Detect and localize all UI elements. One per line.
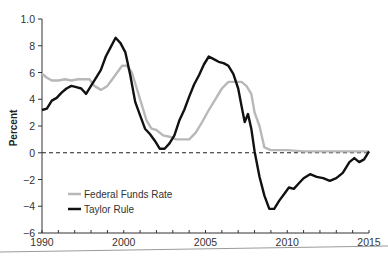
y-tick-label: −4 [23,200,35,212]
y-tick-label: 0 [29,147,35,159]
y-tick-label: −2 [23,174,35,186]
x-tick-label: 2005 [194,236,218,248]
y-axis-ticks: 1.086420−2−4−6 [20,13,42,239]
y-tick-label: 2 [29,120,35,132]
taylor-rule-line [42,38,369,209]
legend-label-federal-funds-rate: Federal Funds Rate [84,189,173,200]
y-tick-label: 4 [29,93,35,105]
legend-label-taylor-rule: Taylor Rule [84,204,134,215]
y-tick-label: 8 [29,40,35,52]
x-tick-label: 2000 [112,236,136,248]
x-tick-label: 2010 [276,236,300,248]
legend: Federal Funds Rate Taylor Rule [68,189,173,215]
y-axis-label: Percent [8,109,19,146]
x-tick-label: 1990 [30,236,54,248]
federal-funds-rate-line [42,66,369,152]
y-tick-label: 6 [29,67,35,79]
y-tick-label: 1.0 [20,13,35,25]
line-chart: Percent 1.086420−2−4−6 19902000200520102… [0,0,388,262]
